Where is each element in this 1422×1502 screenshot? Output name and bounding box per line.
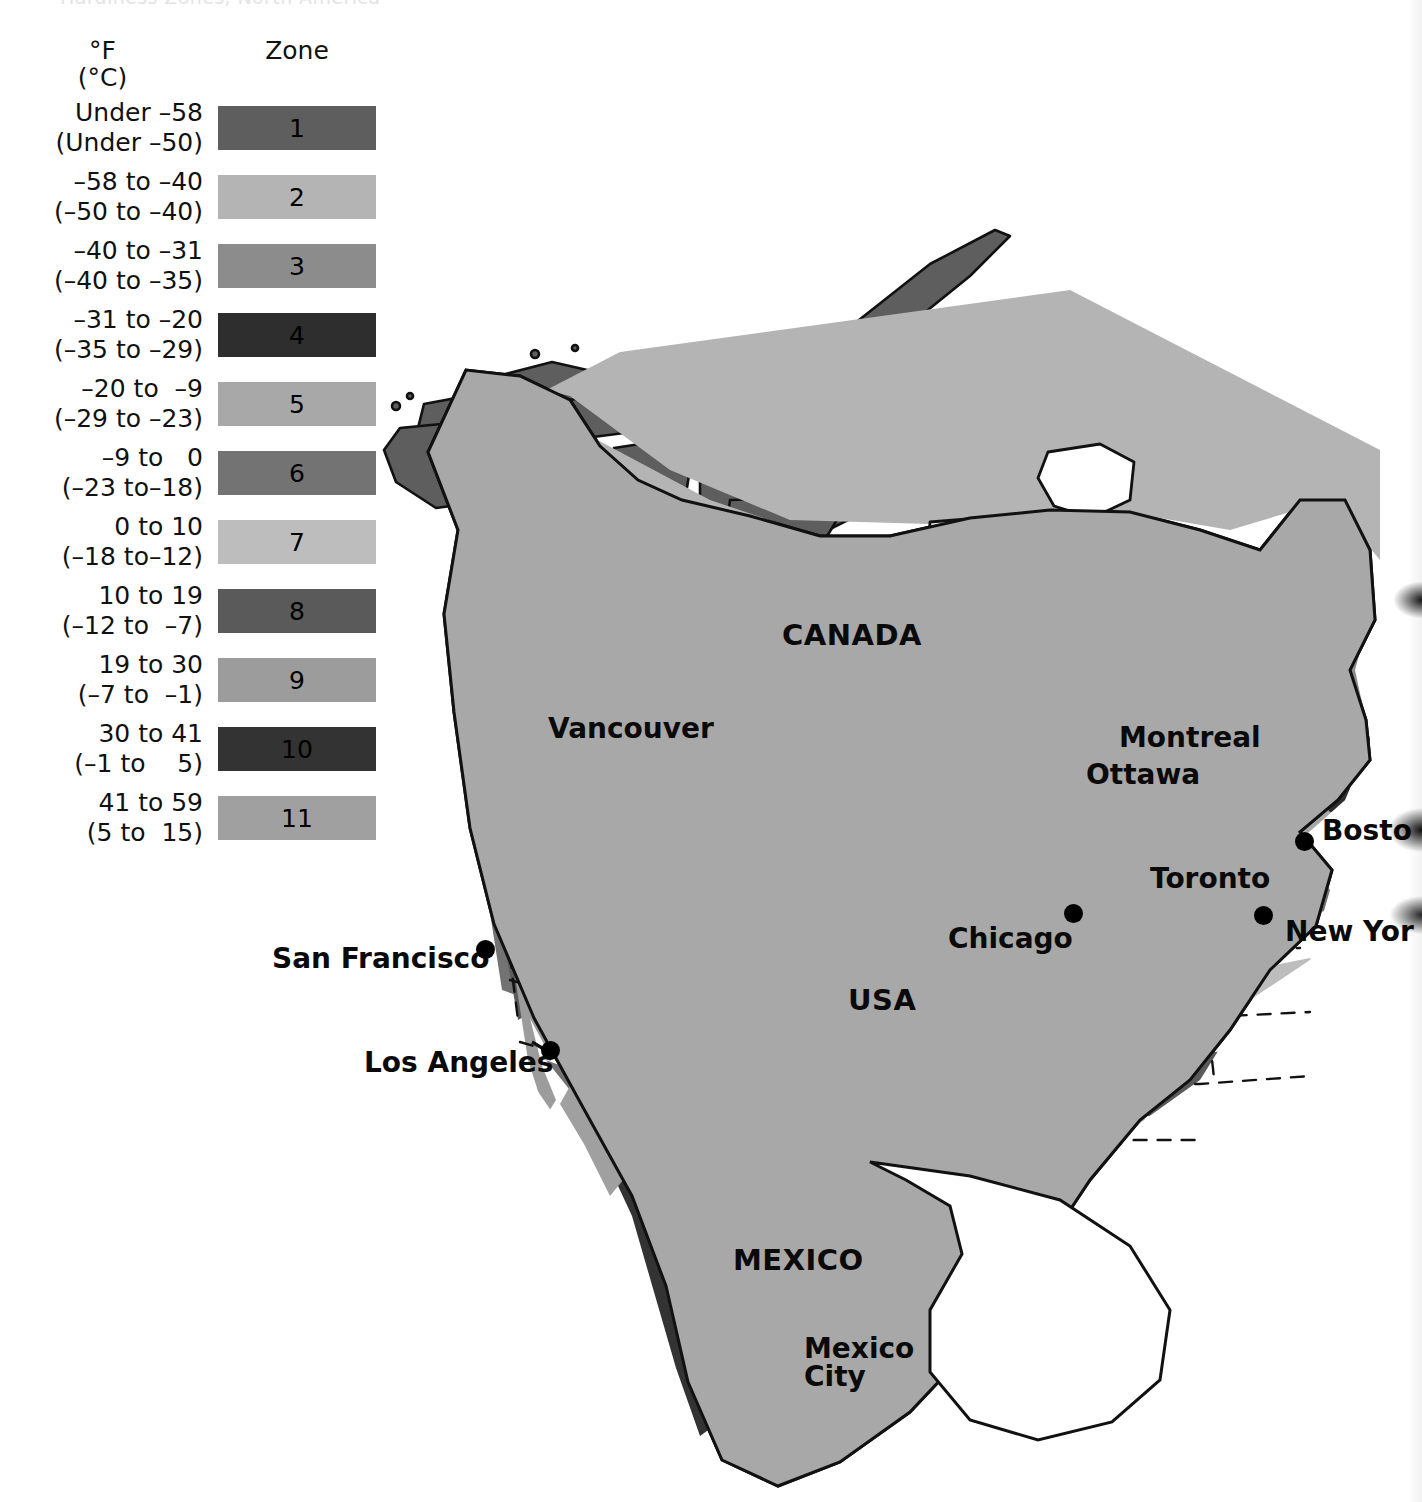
legend-fahrenheit-range: –58 to –40 xyxy=(0,167,203,197)
legend-temperature-labels: Under –58(Under –50) xyxy=(0,98,205,158)
legend-zone-number: 1 xyxy=(289,116,305,141)
city-marker-dot[interactable] xyxy=(1254,906,1273,925)
city-label: New Yor xyxy=(1285,917,1414,946)
country-label: CANADA xyxy=(782,620,922,650)
legend-zone-number: 3 xyxy=(289,254,305,279)
legend-celsius-range: (–35 to –29) xyxy=(0,335,203,365)
legend-temperature-labels: 19 to 30(–7 to –1) xyxy=(0,650,205,710)
legend-color-swatch-zone-5[interactable]: 5 xyxy=(218,382,376,426)
legend-temperature-labels: –31 to –20(–35 to –29) xyxy=(0,305,205,365)
legend-temperature-labels: 30 to 41(–1 to 5) xyxy=(0,719,205,779)
legend-fahrenheit-range: 10 to 19 xyxy=(0,581,203,611)
legend-temperature-labels: –20 to –9(–29 to –23) xyxy=(0,374,205,434)
legend-fahrenheit-range: –40 to –31 xyxy=(0,236,203,266)
hardiness-zone-map xyxy=(370,200,1422,1502)
legend-row-zone-7: 0 to 10(–18 to–12)7 xyxy=(0,512,395,581)
country-label: MEXICO xyxy=(733,1245,864,1275)
clipped-title-text: Hardiness Zones, North America xyxy=(60,0,380,8)
legend-temperature-labels: 41 to 59(5 to 15) xyxy=(0,788,205,848)
legend-fahrenheit-range: 30 to 41 xyxy=(0,719,203,749)
city-marker-dot[interactable] xyxy=(541,1041,560,1060)
city-label: Ottawa xyxy=(1086,760,1200,789)
legend-zone-number: 6 xyxy=(289,461,305,486)
legend-celsius-range: (–23 to–18) xyxy=(0,473,203,503)
legend-zone-number: 7 xyxy=(289,530,305,555)
legend-color-swatch-zone-1[interactable]: 1 xyxy=(218,106,376,150)
legend-zone-number: 8 xyxy=(289,599,305,624)
legend-unit-fahrenheit: °F xyxy=(0,36,205,65)
legend-fahrenheit-range: 41 to 59 xyxy=(0,788,203,818)
city-marker-dot[interactable] xyxy=(1064,904,1083,923)
legend-panel: °F (°C) Zone Under –58(Under –50)1–58 to… xyxy=(0,36,395,857)
legend-row-zone-9: 19 to 30(–7 to –1)9 xyxy=(0,650,395,719)
map-container: CANADAUSAMEXICOVancouverMontrealOttawaTo… xyxy=(370,200,1422,1502)
legend-zone-number: 11 xyxy=(281,806,313,831)
city-label: Montreal xyxy=(1119,723,1261,752)
legend-temperature-labels: 0 to 10(–18 to–12) xyxy=(0,512,205,572)
legend-row-list: Under –58(Under –50)1–58 to –40(–50 to –… xyxy=(0,98,395,857)
city-label: Mexico xyxy=(804,1334,914,1363)
country-label: USA xyxy=(848,985,916,1015)
city-label: Los Angeles xyxy=(364,1048,553,1077)
legend-fahrenheit-range: –31 to –20 xyxy=(0,305,203,335)
legend-zone-number: 10 xyxy=(281,737,313,762)
legend-fahrenheit-range: –20 to –9 xyxy=(0,374,203,404)
legend-fahrenheit-range: 19 to 30 xyxy=(0,650,203,680)
legend-row-zone-6: –9 to 0(–23 to–18)6 xyxy=(0,443,395,512)
legend-row-zone-1: Under –58(Under –50)1 xyxy=(0,98,395,167)
legend-celsius-range: (–1 to 5) xyxy=(0,749,203,779)
legend-row-zone-3: –40 to –31(–40 to –35)3 xyxy=(0,236,395,305)
city-label: Chicago xyxy=(948,924,1073,953)
legend-color-swatch-zone-8[interactable]: 8 xyxy=(218,589,376,633)
legend-celsius-range: (–12 to –7) xyxy=(0,611,203,641)
legend-color-swatch-zone-11[interactable]: 11 xyxy=(218,796,376,840)
legend-row-zone-5: –20 to –9(–29 to –23)5 xyxy=(0,374,395,443)
legend-color-swatch-zone-7[interactable]: 7 xyxy=(218,520,376,564)
legend-color-swatch-zone-6[interactable]: 6 xyxy=(218,451,376,495)
legend-temperature-labels: 10 to 19(–12 to –7) xyxy=(0,581,205,641)
legend-color-swatch-zone-3[interactable]: 3 xyxy=(218,244,376,288)
legend-row-zone-8: 10 to 19(–12 to –7)8 xyxy=(0,581,395,650)
legend-row-zone-10: 30 to 41(–1 to 5)10 xyxy=(0,719,395,788)
legend-row-zone-4: –31 to –20(–35 to –29)4 xyxy=(0,305,395,374)
legend-celsius-range: (–50 to –40) xyxy=(0,197,203,227)
legend-header: °F (°C) Zone xyxy=(0,36,395,94)
legend-celsius-range: (5 to 15) xyxy=(0,818,203,848)
legend-fahrenheit-range: Under –58 xyxy=(0,98,203,128)
legend-zone-number: 4 xyxy=(289,323,305,348)
legend-zone-header: Zone xyxy=(218,36,376,65)
clipped-title-strip: Hardiness Zones, North America xyxy=(0,0,1422,10)
legend-temperature-labels: –9 to 0(–23 to–18) xyxy=(0,443,205,503)
city-label: San Francisco xyxy=(272,944,489,973)
legend-celsius-range: (Under –50) xyxy=(0,128,203,158)
legend-zone-number: 2 xyxy=(289,185,305,210)
legend-celsius-range: (–40 to –35) xyxy=(0,266,203,296)
legend-fahrenheit-range: –9 to 0 xyxy=(0,443,203,473)
city-marker-dot[interactable] xyxy=(1295,832,1314,851)
legend-color-swatch-zone-9[interactable]: 9 xyxy=(218,658,376,702)
legend-zone-number: 9 xyxy=(289,668,305,693)
legend-unit-celsius: (°C) xyxy=(0,63,205,92)
legend-temperature-labels: –58 to –40(–50 to –40) xyxy=(0,167,205,227)
legend-temperature-labels: –40 to –31(–40 to –35) xyxy=(0,236,205,296)
legend-row-zone-11: 41 to 59(5 to 15)11 xyxy=(0,788,395,857)
city-label: City xyxy=(804,1362,866,1391)
legend-color-swatch-zone-2[interactable]: 2 xyxy=(218,175,376,219)
legend-row-zone-2: –58 to –40(–50 to –40)2 xyxy=(0,167,395,236)
legend-color-swatch-zone-10[interactable]: 10 xyxy=(218,727,376,771)
legend-color-swatch-zone-4[interactable]: 4 xyxy=(218,313,376,357)
city-marker-dot[interactable] xyxy=(476,940,495,959)
legend-zone-number: 5 xyxy=(289,392,305,417)
legend-celsius-range: (–29 to –23) xyxy=(0,404,203,434)
legend-fahrenheit-range: 0 to 10 xyxy=(0,512,203,542)
city-label: Vancouver xyxy=(548,714,714,743)
city-label: Bosto xyxy=(1322,816,1412,845)
coastline-outline xyxy=(428,370,1375,1486)
city-label: Toronto xyxy=(1150,864,1270,893)
legend-celsius-range: (–7 to –1) xyxy=(0,680,203,710)
legend-celsius-range: (–18 to–12) xyxy=(0,542,203,572)
